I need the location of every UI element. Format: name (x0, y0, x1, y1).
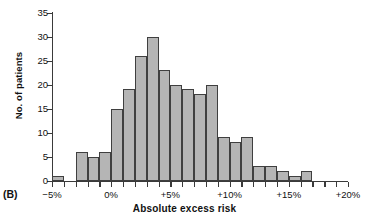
x-axis-tick (277, 182, 278, 187)
x-axis-tick-label: +5% (161, 190, 180, 200)
x-axis-tick (289, 182, 290, 187)
histogram-figure: No. of patients 05101520253035−5%0%+5%+1… (0, 0, 369, 217)
histogram-bar (159, 70, 171, 180)
histogram-bar (230, 142, 242, 180)
x-axis-tick (301, 182, 302, 187)
x-axis-tick (147, 182, 148, 187)
x-axis-title: Absolute excess risk (0, 203, 369, 214)
y-axis-tick-label: 0 (43, 176, 48, 186)
bar-series (52, 13, 348, 181)
histogram-bar (241, 137, 253, 180)
histogram-bar (253, 166, 265, 180)
x-axis-tick (135, 182, 136, 187)
x-axis-tick-label: +10% (217, 190, 242, 200)
x-axis-tick (336, 182, 337, 187)
histogram-bar (218, 137, 230, 180)
histogram-bar (88, 157, 100, 181)
x-axis-tick (253, 182, 254, 187)
x-axis-tick (111, 182, 112, 187)
histogram-bar (182, 89, 194, 180)
histogram-bar (123, 89, 135, 180)
x-axis-tick-label: +15% (277, 190, 302, 200)
histogram-bar (135, 56, 147, 181)
x-axis-tick (194, 182, 195, 187)
x-axis-tick (230, 182, 231, 187)
x-axis-tick (324, 182, 325, 187)
y-axis-tick-label: 15 (37, 104, 48, 114)
plot-area: 05101520253035−5%0%+5%+10%+15%+20% (52, 12, 348, 182)
x-axis-tick (64, 182, 65, 187)
histogram-bar (76, 152, 88, 181)
histogram-bar (111, 109, 123, 181)
histogram-bar (301, 171, 313, 181)
histogram-bar (99, 152, 111, 181)
x-axis-tick (312, 182, 313, 187)
y-axis-tick-label: 25 (37, 56, 48, 66)
histogram-bar (52, 176, 64, 181)
x-axis-tick (218, 182, 219, 187)
x-axis-line (52, 181, 348, 182)
x-axis-tick-label: +20% (336, 190, 361, 200)
histogram-bar (265, 166, 277, 180)
histogram-bar (277, 171, 289, 181)
histogram-bar (194, 94, 206, 180)
x-axis-tick (265, 182, 266, 187)
x-axis-tick (52, 182, 53, 187)
y-axis-title: No. of patients (13, 26, 24, 146)
x-axis-tick (182, 182, 183, 187)
x-axis-tick (348, 182, 349, 187)
x-axis-tick (170, 182, 171, 187)
histogram-bar (289, 176, 301, 181)
x-axis-tick (206, 182, 207, 187)
y-axis-tick-label: 5 (43, 152, 48, 162)
y-axis-tick-label: 30 (37, 32, 48, 42)
y-axis-tick-label: 35 (37, 8, 48, 18)
histogram-bar (170, 85, 182, 181)
histogram-bar (147, 37, 159, 181)
x-axis-tick (99, 182, 100, 187)
y-axis-tick-label: 20 (37, 80, 48, 90)
x-axis-tick (88, 182, 89, 187)
x-axis-tick (123, 182, 124, 187)
histogram-bar (206, 85, 218, 181)
x-axis-tick-label: 0% (104, 190, 118, 200)
x-axis-tick (241, 182, 242, 187)
x-axis-tick-label: −5% (42, 190, 61, 200)
x-axis-tick (76, 182, 77, 187)
y-axis-tick-label: 10 (37, 128, 48, 138)
x-axis-tick (159, 182, 160, 187)
panel-label: (B) (3, 188, 18, 200)
